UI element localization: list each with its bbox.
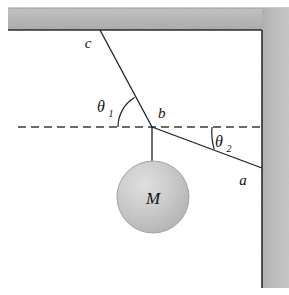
figure-canvas: c b a M θ 1 θ 2 [0,0,289,295]
physics-figure: c b a M θ 1 θ 2 [0,0,289,295]
string-b-to-a [152,127,262,168]
ceiling [8,8,289,30]
theta2-arc [212,127,214,149]
label-theta1-subscript: 1 [109,108,114,119]
wall-slab [262,8,289,288]
ceiling-slab [8,8,289,30]
theta1-arc [118,98,135,127]
label-theta2-subscript: 2 [227,143,232,154]
label-theta1-symbol: θ [97,98,105,115]
label-theta1: θ 1 [97,98,113,119]
label-point-a: a [239,172,247,188]
angle-arcs [118,98,214,150]
strings [100,30,262,168]
label-point-c: c [85,35,92,51]
label-theta2-symbol: θ [215,133,223,150]
wall [262,8,289,288]
label-mass: M [145,189,161,208]
label-point-b: b [158,105,166,121]
